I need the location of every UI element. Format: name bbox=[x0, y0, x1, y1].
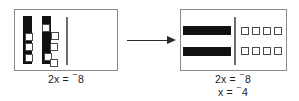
negative-sign: ⁻ bbox=[239, 70, 245, 83]
equals-divider-line bbox=[234, 17, 236, 65]
after-panel bbox=[180, 9, 287, 71]
unit-tile bbox=[252, 47, 260, 55]
unit-tile bbox=[50, 59, 58, 67]
after-caption: 2x = ⁻8 x = ⁻4 bbox=[178, 73, 288, 99]
unit-tile bbox=[50, 43, 58, 51]
unit-tile bbox=[51, 32, 59, 40]
equals-divider-line bbox=[66, 17, 68, 65]
unit-tile bbox=[252, 27, 260, 35]
negative-sign: ⁻ bbox=[72, 70, 78, 83]
unit-tile bbox=[241, 27, 249, 35]
after-equation-2-value: 4 bbox=[242, 86, 248, 98]
before-caption: 2x = ⁻8 bbox=[14, 73, 118, 86]
before-panel bbox=[14, 9, 118, 71]
unit-tile bbox=[25, 33, 33, 41]
unit-tile bbox=[263, 27, 271, 35]
after-equation-1-value: 8 bbox=[245, 73, 251, 85]
right-arrow-icon bbox=[127, 36, 177, 45]
negative-sign: ⁻ bbox=[236, 83, 242, 96]
unit-tile bbox=[241, 47, 249, 55]
figure-canvas: 2x = ⁻8 2x = ⁻8 x = ⁻4 bbox=[0, 0, 299, 101]
unit-tile bbox=[25, 43, 33, 51]
after-equation-line-1: 2x = ⁻8 bbox=[178, 73, 288, 86]
unit-tile bbox=[274, 27, 282, 35]
unit-tile bbox=[274, 47, 282, 55]
arrow-head bbox=[167, 36, 176, 44]
before-equation-value: 8 bbox=[78, 73, 84, 85]
before-equation-prefix: 2x = bbox=[48, 73, 72, 85]
variable-bar bbox=[183, 26, 231, 35]
unit-tile bbox=[263, 47, 271, 55]
arrow-shaft bbox=[127, 40, 169, 41]
after-equation-2-prefix: x = bbox=[218, 86, 236, 98]
unit-tile bbox=[42, 24, 50, 32]
before-equation-line-1: 2x = ⁻8 bbox=[14, 73, 118, 86]
unit-tile bbox=[25, 54, 33, 62]
variable-bar bbox=[183, 47, 231, 56]
after-equation-line-2: x = ⁻4 bbox=[178, 86, 288, 99]
